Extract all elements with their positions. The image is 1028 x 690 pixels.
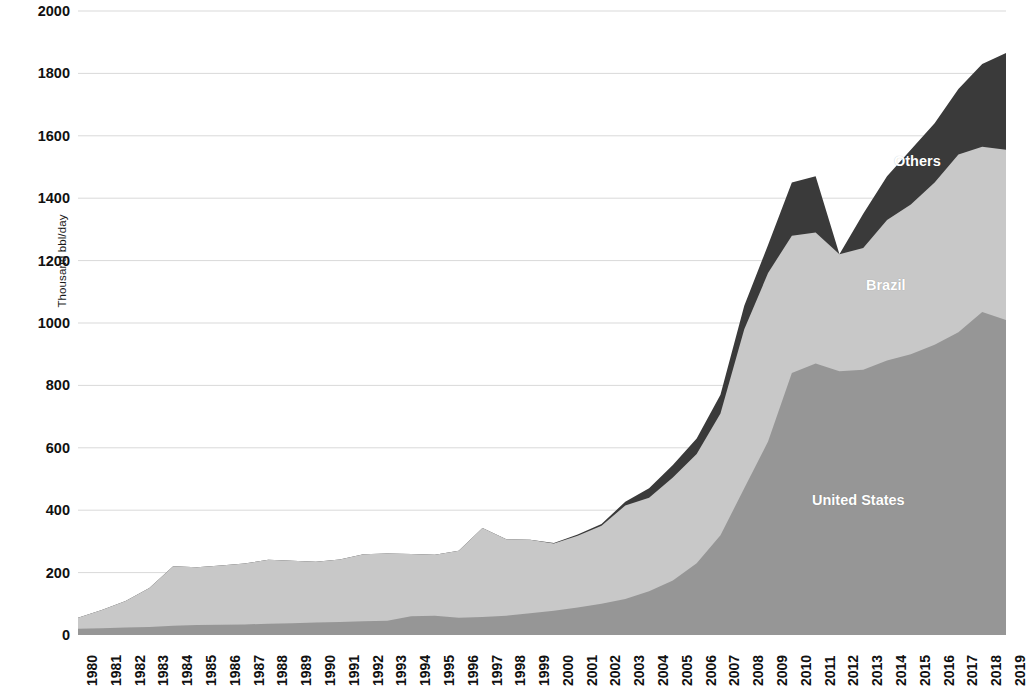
series-label-brazil: Brazil: [866, 277, 906, 293]
y-axis-tick-label: 1600: [14, 129, 70, 144]
x-axis-tick-label: 1999: [536, 664, 552, 686]
x-axis-tick-label: 2005: [679, 664, 695, 686]
x-axis-tick-label: 2001: [584, 664, 600, 686]
y-axis-tick-label: 2000: [14, 4, 70, 19]
y-axis-tick-label: 1000: [14, 316, 70, 331]
x-axis-tick-label: 1980: [84, 664, 100, 686]
x-axis-tick-label: 1983: [155, 664, 171, 686]
x-axis-tick-label: 1986: [227, 664, 243, 686]
x-axis-tick-label: 2014: [893, 664, 909, 686]
x-axis-tick-label: 2019: [1012, 664, 1028, 686]
x-axis-tick-label: 2002: [607, 664, 623, 686]
x-axis-tick-labels: 1980198119821983198419851986198719881989…: [0, 640, 1016, 690]
x-axis-tick-label: 2013: [869, 664, 885, 686]
x-axis-tick-label: 1985: [203, 664, 219, 686]
x-axis-tick-label: 1996: [465, 664, 481, 686]
x-axis-tick-label: 1990: [322, 664, 338, 686]
y-axis-tick-label: 1400: [14, 191, 70, 206]
x-axis-tick-label: 1988: [274, 664, 290, 686]
x-axis-tick-label: 2008: [750, 664, 766, 686]
x-axis-tick-label: 1989: [298, 664, 314, 686]
x-axis-tick-label: 2007: [726, 664, 742, 686]
y-axis-tick-label: 1800: [14, 66, 70, 81]
x-axis-tick-label: 2015: [917, 664, 933, 686]
x-axis-tick-label: 1998: [512, 664, 528, 686]
x-axis-tick-label: 2010: [798, 664, 814, 686]
x-axis-tick-label: 2011: [822, 664, 838, 686]
x-axis-tick-label: 1981: [108, 664, 124, 686]
x-axis-tick-label: 2012: [845, 664, 861, 686]
x-axis-tick-label: 2006: [703, 664, 719, 686]
y-axis-tick-label: 800: [14, 378, 70, 393]
x-axis-tick-label: 2009: [774, 664, 790, 686]
y-axis-tick-label: 200: [14, 566, 70, 581]
y-axis-tick-label: 1200: [14, 254, 70, 269]
x-axis-tick-label: 2016: [941, 664, 957, 686]
x-axis-tick-label: 1995: [441, 664, 457, 686]
series-label-others: Others: [894, 153, 941, 169]
x-axis-tick-label: 1984: [179, 664, 195, 686]
x-axis-tick-label: 1993: [393, 664, 409, 686]
series-label-united-states: United States: [812, 492, 905, 508]
x-axis-tick-label: 2000: [560, 664, 576, 686]
y-axis-tick-label: 600: [14, 441, 70, 456]
y-axis-tick-labels: 0200400600800100012001400160018002000: [0, 0, 70, 690]
x-axis-tick-label: 1992: [370, 664, 386, 686]
x-axis-tick-label: 2004: [655, 664, 671, 686]
x-axis-tick-label: 2018: [988, 664, 1004, 686]
x-axis-tick-label: 2017: [964, 664, 980, 686]
x-axis-tick-label: 1987: [251, 664, 267, 686]
area-series-group: [78, 53, 1006, 635]
x-axis-tick-label: 1997: [489, 664, 505, 686]
x-axis-tick-label: 1994: [417, 664, 433, 686]
x-axis-tick-label: 1982: [132, 664, 148, 686]
x-axis-tick-label: 2003: [631, 664, 647, 686]
x-axis-tick-label: 1991: [346, 664, 362, 686]
y-axis-tick-label: 400: [14, 503, 70, 518]
